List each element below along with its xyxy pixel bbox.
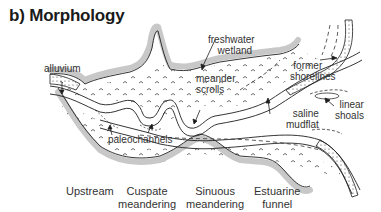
zone-line: Estuarine: [254, 185, 300, 198]
label-line: wetland: [208, 45, 255, 56]
zone-line: funnel: [254, 198, 300, 211]
zone-sinuous-meandering: Sinuous meandering: [186, 185, 244, 211]
label-saline-mudflat: saline mudflat: [286, 108, 319, 130]
zone-line: Cuspate: [118, 185, 176, 198]
label-paleochannels: paleochannels: [108, 134, 173, 145]
label-freshwater-wetland: freshwater wetland: [208, 34, 255, 56]
wetland-area: [60, 50, 320, 120]
label-alluvium: alluvium: [44, 63, 81, 74]
label-line: linear: [335, 99, 364, 110]
label-line: shorelines: [290, 71, 336, 82]
label-line: scrolls: [196, 84, 235, 95]
zone-cuspate-meandering: Cuspate meandering: [118, 185, 176, 211]
label-line: shoals: [335, 110, 364, 121]
zone-line: Sinuous: [186, 185, 244, 198]
label-meander-scrolls: meander scrolls: [196, 73, 235, 95]
zone-line: meandering: [118, 198, 176, 211]
zone-estuarine-funnel: Estuarine funnel: [254, 185, 300, 211]
estuary-morphology-diagram: [0, 0, 381, 212]
zone-upstream: Upstream: [66, 185, 114, 198]
zone-line: meandering: [186, 198, 244, 211]
label-former-shorelines: former shorelines: [290, 60, 336, 82]
label-line: mudflat: [286, 119, 319, 130]
label-line: meander: [196, 73, 235, 84]
zone-line: Upstream: [66, 185, 114, 198]
label-line: freshwater: [208, 34, 255, 45]
label-line: former: [290, 60, 336, 71]
label-linear-shoals: linear shoals: [335, 99, 364, 121]
label-line: saline: [286, 108, 319, 119]
